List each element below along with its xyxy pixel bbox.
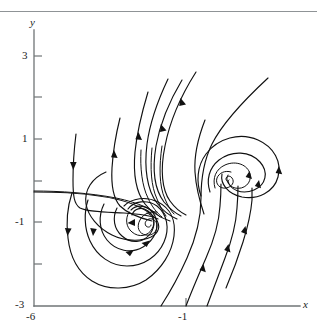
left-spiral-arrowhead <box>128 219 136 226</box>
trajectory-3-arrowhead <box>135 132 142 140</box>
trajectory-9 <box>207 186 238 306</box>
y-tick-label-1: 1 <box>22 133 28 144</box>
trajectory-1-arrowhead <box>70 162 77 170</box>
trajectory-13-arrowhead <box>90 228 97 236</box>
x-tick-label-neg6: -6 <box>26 311 35 322</box>
right-spiral-core <box>217 171 234 188</box>
x-tick-label-neg1: -1 <box>178 311 187 322</box>
trajectory-21-arrowhead <box>276 166 283 174</box>
phase-portrait-figure: y x 3 1 -1 -3 -6 -1 <box>0 0 317 328</box>
y-axis-label: y <box>30 17 35 28</box>
trajectory-23-arrowhead <box>246 171 252 179</box>
trajectory-17 <box>34 191 160 217</box>
y-tick-label-3: 3 <box>22 50 28 61</box>
y-tick-label-neg3: -3 <box>15 299 24 310</box>
phase-plane-plot <box>0 0 317 328</box>
trajectory-22-arrowhead <box>255 180 261 188</box>
trajectory-2-arrowhead <box>111 150 118 158</box>
trajectory-10-arrowhead <box>241 226 247 235</box>
x-axis-label: x <box>303 299 308 310</box>
trajectory-group <box>34 72 282 306</box>
trajectory-10 <box>226 188 252 288</box>
trajectory-6 <box>162 72 196 215</box>
trajectory-8 <box>186 184 221 306</box>
trajectory-12-arrowhead <box>65 228 72 236</box>
trajectory-5-arrowhead <box>160 124 167 132</box>
y-tick-label-neg1: -1 <box>15 216 24 227</box>
